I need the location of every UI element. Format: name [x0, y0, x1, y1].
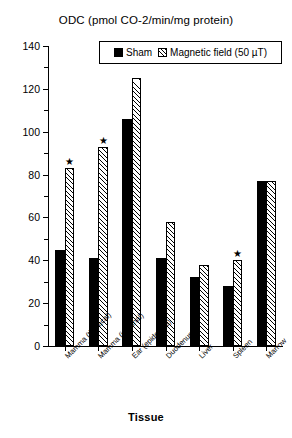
- bar-magnetic-field: [199, 265, 209, 346]
- bar-magnetic-field: [233, 260, 243, 346]
- bar-magnetic-field: [266, 181, 276, 346]
- significance-star-icon: ★: [231, 249, 243, 258]
- bar-sham: [55, 250, 65, 346]
- bar-sham: [257, 181, 267, 346]
- bar-sham: [223, 286, 233, 346]
- odc-bar-chart: ODC (pmol CO-2/min/mg protein) Sham Magn…: [0, 0, 292, 438]
- significance-star-icon: ★: [97, 136, 109, 145]
- bar-magnetic-field: [132, 78, 142, 346]
- bar-sham: [122, 119, 132, 346]
- bars-layer: ★★★: [0, 0, 292, 438]
- bar-magnetic-field: [65, 168, 75, 346]
- x-axis-title: Tissue: [0, 411, 292, 423]
- significance-star-icon: ★: [64, 157, 76, 166]
